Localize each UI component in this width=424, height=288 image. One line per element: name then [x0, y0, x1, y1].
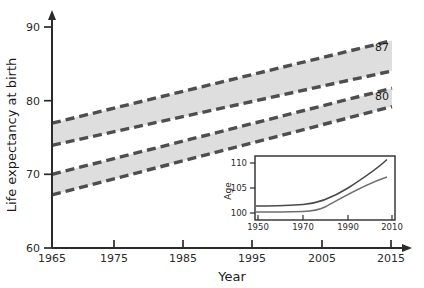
inset-x-tick-label-2010: 2010	[381, 222, 403, 232]
inset-x-tick-label-1990: 1990	[337, 222, 359, 232]
inset-y-tick-label-100: 100	[231, 208, 247, 218]
upper-band-value-label: 87	[375, 41, 389, 54]
chart-figure: 87 80 60 70 80 90 Life expectancy at bir…	[0, 0, 424, 288]
life-expectancy-chart: 87 80 60 70 80 90 Life expectancy at bir…	[0, 0, 424, 288]
y-tick-label-70: 70	[26, 168, 40, 181]
x-tick-label-1965: 1965	[38, 252, 66, 265]
y-tick-label-80: 80	[26, 95, 40, 108]
inset-y-axis-title: Age	[223, 182, 233, 200]
x-tick-label-1985: 1985	[169, 252, 197, 265]
y-axis: 60 70 80 90 Life expectancy at birth	[4, 10, 56, 255]
inset-x-tick-label-1950: 1950	[247, 222, 269, 232]
y-axis-title: Life expectancy at birth	[4, 58, 19, 212]
inset-chart: 110 105 100 Age 1950 1970 1990 2010	[223, 156, 403, 232]
x-tick-label-2015: 2015	[377, 252, 405, 265]
x-axis: 1965 1975 1985 1995 2005 2015 Year	[38, 240, 412, 284]
x-tick-label-1975: 1975	[100, 252, 128, 265]
x-tick-label-1995: 1995	[238, 252, 266, 265]
lower-band-value-label: 80	[375, 90, 389, 103]
inset-x-tick-label-1970: 1970	[292, 222, 314, 232]
x-axis-arrowhead	[402, 244, 412, 252]
inset-y-tick-label-110: 110	[231, 158, 247, 168]
inset-y-tick-label-105: 105	[231, 183, 247, 193]
x-tick-label-2005: 2005	[308, 252, 336, 265]
x-axis-title: Year	[217, 269, 246, 284]
inset-plot-frame	[255, 156, 395, 220]
y-axis-arrowhead	[48, 10, 56, 20]
y-tick-label-90: 90	[26, 21, 40, 34]
